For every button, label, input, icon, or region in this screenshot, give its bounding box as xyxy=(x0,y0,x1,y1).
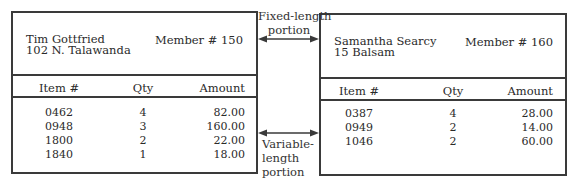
item-number: 1840 xyxy=(29,148,89,161)
column-header-item: Item # xyxy=(329,84,389,98)
amount: 28.00 xyxy=(483,107,553,120)
quantity: 1 xyxy=(123,148,163,161)
variable-length-section: 0387 4 28.00 0949 2 14.00 1046 2 60.00 xyxy=(321,107,565,149)
amount: 18.00 xyxy=(175,148,245,161)
fixed-length-section: Samantha Searcy 15 Balsam Member # 160 xyxy=(321,15,565,79)
table-header: Item # Qty Amount xyxy=(13,76,256,98)
item-number: 0948 xyxy=(29,120,89,133)
quantity: 3 xyxy=(123,120,163,133)
variable-label-line1: Variable- xyxy=(262,137,312,151)
quantity: 4 xyxy=(433,107,473,120)
quantity: 4 xyxy=(123,106,163,119)
item-number: 1046 xyxy=(329,135,389,148)
quantity: 2 xyxy=(123,134,163,147)
column-header-item: Item # xyxy=(29,81,89,95)
fixed-length-label: Fixed-length portion xyxy=(258,9,320,37)
fixed-label-line1: Fixed-length xyxy=(258,9,320,23)
record-samantha-searcy: Samantha Searcy 15 Balsam Member # 160 I… xyxy=(319,13,567,176)
table-row: 0462 4 82.00 xyxy=(13,106,256,120)
amount: 60.00 xyxy=(483,135,553,148)
table-header: Item # Qty Amount xyxy=(321,79,565,101)
quantity: 2 xyxy=(433,135,473,148)
member-number: Member # 160 xyxy=(465,36,553,48)
variable-label-line2: length xyxy=(262,151,312,165)
item-number: 1800 xyxy=(29,134,89,147)
item-number: 0949 xyxy=(329,121,389,134)
table-row: 0387 4 28.00 xyxy=(321,107,565,121)
amount: 160.00 xyxy=(175,120,245,133)
amount: 14.00 xyxy=(483,121,553,134)
amount: 82.00 xyxy=(175,106,245,119)
variable-length-label: Variable- length portion xyxy=(262,137,312,179)
record-tim-gottfried: Tim Gottfried 102 N. Talawanda Member # … xyxy=(11,11,258,174)
item-number: 0387 xyxy=(329,107,389,120)
customer-address: 102 N. Talawanda xyxy=(26,44,131,56)
column-header-qty: Qty xyxy=(433,84,473,98)
double-arrow-icon xyxy=(258,34,319,44)
amount: 22.00 xyxy=(175,134,245,147)
table-row: 1840 1 18.00 xyxy=(13,148,256,162)
item-number: 0462 xyxy=(29,106,89,119)
table-row: 1046 2 60.00 xyxy=(321,135,565,149)
variable-length-section: 0462 4 82.00 0948 3 160.00 1800 2 22.00 … xyxy=(13,106,256,162)
quantity: 2 xyxy=(433,121,473,134)
column-header-amount: Amount xyxy=(483,84,553,98)
table-row: 0948 3 160.00 xyxy=(13,120,256,134)
member-number: Member # 150 xyxy=(155,34,243,46)
fixed-length-section: Tim Gottfried 102 N. Talawanda Member # … xyxy=(13,13,256,76)
table-row: 1800 2 22.00 xyxy=(13,134,256,148)
customer-address: 15 Balsam xyxy=(334,46,395,58)
variable-label-line3: portion xyxy=(262,165,312,179)
column-header-amount: Amount xyxy=(175,81,245,95)
column-header-qty: Qty xyxy=(123,81,163,95)
table-row: 0949 2 14.00 xyxy=(321,121,565,135)
